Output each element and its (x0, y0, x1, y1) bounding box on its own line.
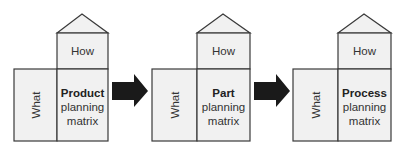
qfd-cascade-diagram: How What Product planning matrix How Wha… (0, 0, 408, 153)
right-arrow-icon (254, 74, 290, 107)
matrix-line3: matrix (208, 115, 240, 127)
matrix-title: Process (342, 87, 387, 99)
roof-triangle (338, 14, 391, 33)
how-label: How (71, 45, 95, 57)
matrix-line3: matrix (67, 115, 99, 127)
matrix-line2: planning (61, 101, 104, 113)
stage-part: How What Part planning matrix (152, 14, 250, 141)
how-label: How (353, 45, 377, 57)
what-label: What (169, 91, 181, 119)
matrix-line2: planning (202, 101, 245, 113)
stage-product: How What Product planning matrix (14, 14, 108, 141)
roof-triangle (57, 14, 108, 33)
how-label: How (212, 45, 236, 57)
stage-process: How What Process planning matrix (293, 14, 391, 141)
matrix-line3: matrix (349, 115, 381, 127)
roof-triangle (197, 14, 250, 33)
right-arrow-icon (112, 74, 148, 107)
matrix-title: Part (212, 87, 235, 99)
matrix-line2: planning (343, 101, 386, 113)
matrix-title: Product (61, 87, 105, 99)
what-label: What (310, 91, 322, 119)
what-label: What (30, 91, 42, 119)
